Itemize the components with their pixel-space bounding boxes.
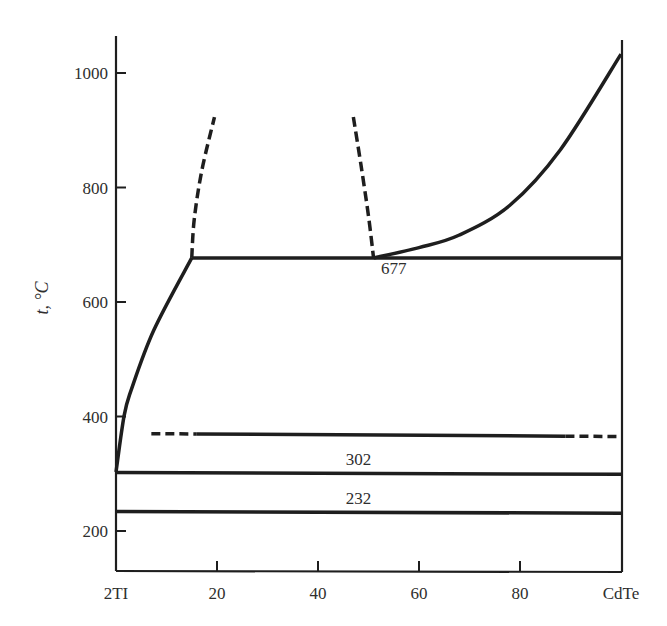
data-series bbox=[116, 54, 621, 513]
series-eutectic-232 bbox=[116, 512, 621, 514]
x-tick-label: 2TI bbox=[104, 584, 129, 603]
x-axis-ticks: 2TI20406080CdTe bbox=[104, 561, 640, 603]
phase-diagram-chart: 2004006008001000 2TI20406080CdTe 6773022… bbox=[0, 0, 667, 626]
annotation-677: 677 bbox=[381, 259, 407, 278]
annotation-302: 302 bbox=[346, 450, 372, 469]
annotations: 677302232 bbox=[346, 259, 407, 508]
x-tick-label: CdTe bbox=[603, 584, 640, 603]
x-tick-label: 40 bbox=[310, 584, 327, 603]
series-miscibility-gap-left bbox=[192, 117, 215, 258]
series-miscibility-gap-right bbox=[353, 117, 373, 258]
series-liquidus-right bbox=[374, 54, 621, 258]
x-tick-label: 60 bbox=[411, 584, 428, 603]
y-tick-label: 800 bbox=[83, 179, 109, 198]
y-tick-label: 1000 bbox=[74, 64, 108, 83]
series-transition-370-solid bbox=[197, 434, 566, 436]
y-axis-ticks: 2004006008001000 bbox=[74, 64, 126, 541]
y-tick-label: 400 bbox=[83, 408, 109, 427]
series-eutectic-302 bbox=[116, 473, 621, 475]
y-tick-label: 200 bbox=[83, 522, 109, 541]
x-tick-label: 20 bbox=[209, 584, 226, 603]
y-axis-title: t, °C bbox=[32, 280, 52, 314]
series-liquidus-left bbox=[116, 258, 192, 472]
x-tick-label: 80 bbox=[512, 584, 529, 603]
y-tick-label: 600 bbox=[83, 293, 109, 312]
annotation-232: 232 bbox=[346, 489, 372, 508]
x-axis-line bbox=[116, 571, 622, 572]
